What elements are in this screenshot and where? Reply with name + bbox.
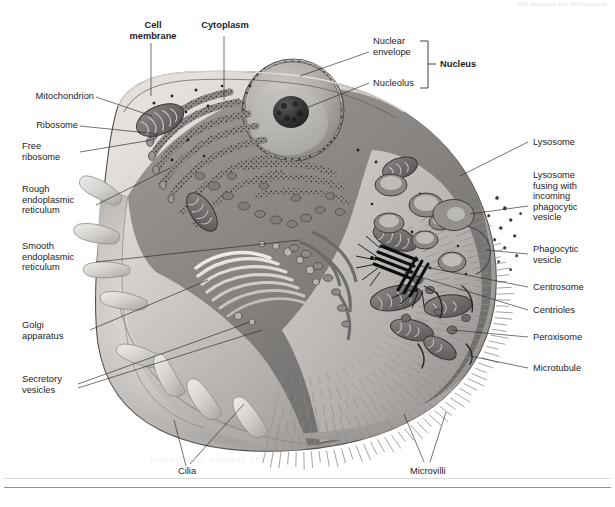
label-microvilli: Microvilli <box>410 466 470 477</box>
label-nuclear-envelope: Nuclear envelope <box>373 36 437 57</box>
label-centrioles: Centrioles <box>533 305 613 316</box>
label-peroxisome: Peroxisome <box>533 332 613 343</box>
label-nucleus: Nucleus <box>440 59 500 70</box>
footer-rule-thick <box>4 487 611 488</box>
label-free-ribosome: Free ribosome <box>22 141 92 162</box>
label-lysosome-fusing: Lysosome fusing with incoming phagocytic… <box>533 170 613 223</box>
figure-page: Cell structures and their functions CELL… <box>0 0 615 507</box>
label-cytoplasm: Cytoplasm <box>190 20 260 31</box>
label-cell-membrane: Cell membrane <box>118 20 188 41</box>
label-cilia: Cilia <box>178 466 218 477</box>
label-nucleolus: Nucleolus <box>373 78 437 89</box>
label-smooth-er: Smooth endoplasmic reticulum <box>22 241 96 273</box>
label-centrosome: Centrosome <box>533 282 613 293</box>
footer-rule-thin <box>4 478 611 479</box>
label-secretory-vesicles: Secretory vesicles <box>22 374 90 395</box>
label-microtubule: Microtubule <box>533 363 615 374</box>
label-ribosome: Ribosome <box>6 120 78 131</box>
label-rough-er: Rough endoplasmic reticulum <box>22 184 96 216</box>
label-golgi-apparatus: Golgi apparatus <box>22 320 90 341</box>
label-lysosome: Lysosome <box>533 137 613 148</box>
label-phagocytic-vesicle: Phagocytic vesicle <box>533 244 613 265</box>
label-mitochondrion: Mitochondrion <box>6 91 94 102</box>
